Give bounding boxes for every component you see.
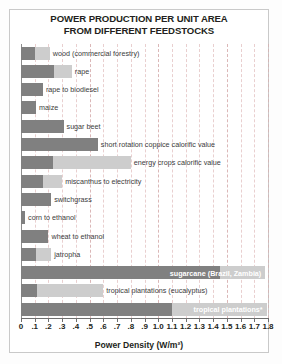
bar-segment-lower [21,65,54,78]
axis-tick-label: 1.7 [249,322,260,331]
bar[interactable] [21,193,51,206]
bar-segment-lower [21,284,37,297]
chart-title: POWER PRODUCTION PER UNIT AREA FROM DIFF… [10,13,268,36]
bar-segment-lower [21,230,48,243]
bar-label: switchgrass [54,194,92,205]
bar-segment-lower [21,120,64,133]
axis-tick-label: 1.6 [235,322,246,331]
bar-segment-lower [21,248,36,261]
bar-segment-lower [21,83,43,96]
bar-label: rape [75,66,89,77]
bar[interactable] [21,120,64,133]
x-axis-tick-labels: 0.1.2.3.4.5.6.7.8.91.01.11.21.31.41.51.6… [0,322,282,334]
bar-label: tropical plantations* [192,304,265,315]
axis-tick-label: .9 [141,322,148,331]
bar[interactable] [21,156,131,169]
axis-tick-label: .7 [114,322,121,331]
bar-row[interactable]: switchgrass [21,193,268,206]
axis-tick-label: 1.3 [194,322,205,331]
bar-label: miscanthus to electricity [65,176,141,187]
axis-tick-label: .1 [31,322,38,331]
bar[interactable] [21,211,25,224]
bar-row[interactable]: short rotation coppice calorific value [21,138,268,151]
axis-tick-label: .3 [59,322,66,331]
bar[interactable] [21,65,72,78]
bar-row[interactable]: tropical plantations (eucalyptus) [21,284,268,297]
bar-label: jatropha [54,249,80,260]
bar-row[interactable]: maize [21,101,268,114]
bar-segment-lower [21,156,53,169]
bar-segment-upper [35,47,50,60]
bar-label: tropical plantations (eucalyptus) [106,285,207,296]
bar-segment-upper [54,65,72,78]
bar[interactable] [21,284,103,297]
bar[interactable] [21,248,51,261]
axis-tick-label: 1.8 [262,322,273,331]
bar-label: energy crops calorific value [134,157,221,168]
x-axis-label: Power Density (W/m²) [10,340,268,350]
bar-row[interactable]: sugar beet [21,120,268,133]
axis-tick-label: .2 [45,322,52,331]
bar-row[interactable]: jatropha [21,248,268,261]
chart-title-line-2: FROM DIFFERENT FEEDSTOCKS [10,25,268,37]
bar-row[interactable]: rape [21,65,268,78]
bar-segment-lower [21,303,172,316]
bar[interactable] [21,230,48,243]
bar-segment-lower [21,138,98,151]
bar-row[interactable]: wood (commercial forestry) [21,47,268,60]
bar-label: wheat to ethanol [51,231,104,242]
bar-row[interactable]: miscanthus to electricity [21,175,268,188]
axis-tick-label: 1.4 [208,322,219,331]
bar-row[interactable]: rape to biodiesel [21,83,268,96]
bar-label: sugarcane (Brazil, Zambia) [168,268,263,279]
bar-label: maize [39,102,58,113]
axis-tick-label: 1.0 [153,322,164,331]
bar-segment-lower [21,47,35,60]
bar-segment-lower [21,175,43,188]
bar-label: corn to ethanol [28,212,76,223]
chart-title-line-1: POWER PRODUCTION PER UNIT AREA [10,13,268,25]
axis-tick-label: .8 [127,322,134,331]
bar-segment-upper [43,175,62,188]
bar[interactable] [21,101,36,114]
axis-tick-label: .6 [100,322,107,331]
bar-row[interactable]: wheat to ethanol [21,230,268,243]
bar-row[interactable]: sugarcane (Brazil, Zambia) [21,266,268,279]
axis-tick-label: 1.5 [221,322,232,331]
bar[interactable] [21,175,62,188]
bar-row[interactable]: energy crops calorific value [21,156,268,169]
axis-tick-label: .4 [73,322,80,331]
axis-tick-label: 1.1 [166,322,177,331]
bar[interactable] [21,138,98,151]
bar-label: rape to biodiesel [46,84,99,95]
bar-row[interactable]: corn to ethanol [21,211,268,224]
bar[interactable] [21,47,50,60]
bar-label: short rotation coppice calorific value [101,139,215,150]
bar-label: wood (commercial forestry) [53,48,140,59]
axis-tick-label: 0 [19,322,23,331]
bar-segment-lower [21,193,51,206]
plot-area: wood (commercial forestry)raperape to bi… [21,44,268,318]
bar-segment-lower [21,101,36,114]
axis-tick-label: 1.2 [180,322,191,331]
axis-tick-label: .5 [86,322,93,331]
bar-segment-lower [21,211,25,224]
bar-segment-upper [53,156,131,169]
bar-segment-upper [36,248,51,261]
bar-label: sugar beet [67,121,101,132]
gridline [268,44,270,318]
bar-row[interactable]: tropical plantations* [21,303,268,316]
bar[interactable] [21,83,43,96]
chart-page: POWER PRODUCTION PER UNIT AREA FROM DIFF… [0,0,282,364]
bar-segment-upper [37,284,103,297]
